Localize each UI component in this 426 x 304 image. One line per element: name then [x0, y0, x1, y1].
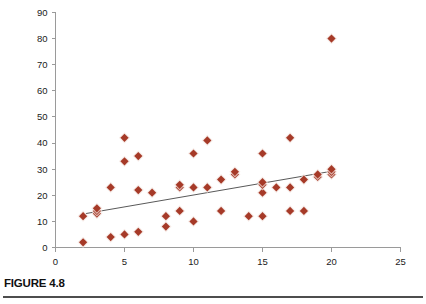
data-point [120, 134, 128, 142]
data-point [272, 183, 280, 191]
caption-divider [3, 296, 423, 298]
data-point [107, 183, 115, 191]
data-point [162, 212, 170, 220]
data-point [134, 152, 142, 160]
chart-canvas: 01020304050607080900510152025 [0, 0, 426, 276]
data-point [258, 149, 266, 157]
y-tick-label: 80 [37, 33, 48, 44]
data-point [120, 230, 128, 238]
data-point [327, 35, 335, 43]
x-tick-label: 20 [326, 256, 337, 267]
data-point [203, 183, 211, 191]
y-tick-label: 70 [37, 59, 48, 70]
data-point [286, 134, 294, 142]
data-point [300, 207, 308, 215]
figure-container: 01020304050607080900510152025 FIGURE 4.8 [0, 0, 426, 304]
data-point [189, 183, 197, 191]
y-tick-label: 90 [37, 7, 48, 18]
y-tick-label: 50 [37, 111, 48, 122]
y-tick-label: 20 [37, 190, 48, 201]
x-tick-label: 10 [188, 256, 199, 267]
data-point [286, 183, 294, 191]
data-point [134, 186, 142, 194]
data-point [217, 176, 225, 184]
data-point [203, 136, 211, 144]
data-point [79, 238, 87, 246]
x-tick-label: 0 [53, 256, 58, 267]
data-point-group [78, 33, 338, 248]
data-point [120, 157, 128, 165]
figure-caption-block: FIGURE 4.8 [0, 276, 426, 304]
data-point [286, 207, 294, 215]
data-point [162, 223, 170, 231]
y-tick-label: 30 [37, 164, 48, 175]
figure-caption-label: FIGURE 4.8 [4, 277, 65, 289]
y-tick-label: 0 [42, 242, 47, 253]
data-point [148, 189, 156, 197]
data-point [189, 217, 197, 225]
y-tick-label: 60 [37, 85, 48, 96]
y-tick-label: 40 [37, 137, 48, 148]
data-point [258, 212, 266, 220]
data-point [189, 149, 197, 157]
x-tick-label: 25 [395, 256, 406, 267]
data-point [217, 207, 225, 215]
trend-line [86, 171, 332, 213]
x-tick-label: 15 [257, 256, 268, 267]
data-point [107, 233, 115, 241]
data-point [176, 207, 184, 215]
scatter-chart: 01020304050607080900510152025 [0, 0, 426, 276]
data-point [245, 212, 253, 220]
data-point [134, 228, 142, 236]
x-tick-label: 5 [122, 256, 127, 267]
y-tick-label: 10 [37, 216, 48, 227]
